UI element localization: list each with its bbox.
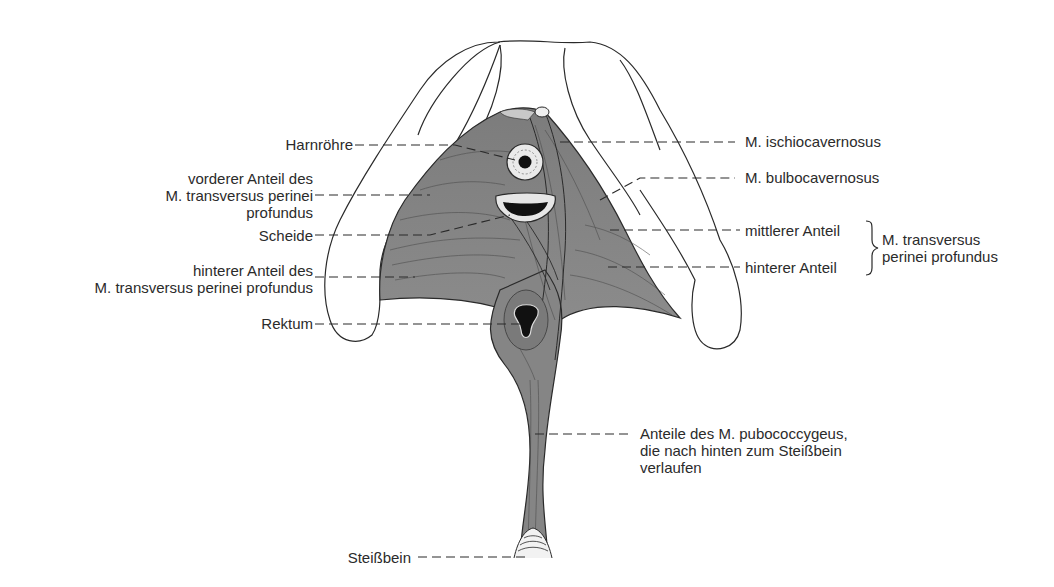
label-steissbein: Steißbein: [348, 549, 411, 566]
label-transversus-group: M. transversus perinei profundus: [882, 231, 998, 265]
label-hinterer-anteil-right: hinterer Anteil: [745, 259, 837, 276]
label-ischiocavernosus: M. ischiocavernosus: [745, 133, 881, 150]
label-hinterer-anteil-left: hinterer Anteil des M. transversus perin…: [95, 262, 313, 296]
label-vorderer-anteil: vorderer Anteil des M. transversus perin…: [165, 170, 313, 221]
label-mittlerer-anteil: mittlerer Anteil: [745, 222, 840, 239]
label-scheide: Scheide: [259, 227, 313, 244]
label-bulbocavernosus: M. bulbocavernosus: [745, 169, 879, 186]
label-rektum: Rektum: [261, 315, 313, 332]
label-pubococcygeus: Anteile des M. pubococcygeus, die nach h…: [640, 425, 848, 476]
clitoris: [535, 107, 549, 117]
urethra-opening: [519, 156, 532, 169]
brace: [866, 221, 878, 275]
label-harnroehre: Harnröhre: [285, 136, 353, 153]
leader-bulbocavernosus: [600, 178, 735, 200]
